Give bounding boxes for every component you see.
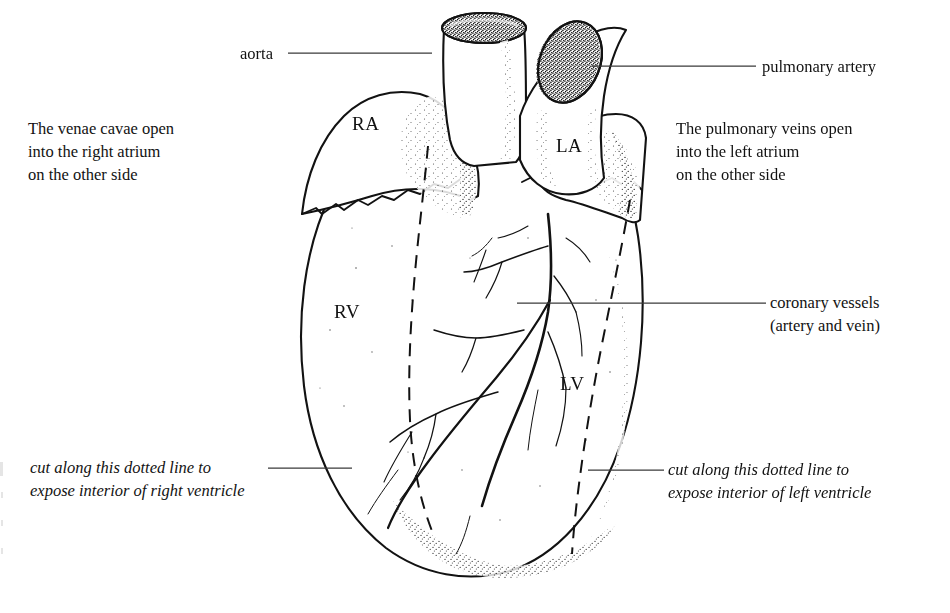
- note-left-line3: on the other side: [28, 164, 138, 185]
- figure-canvas: aorta pulmonary artery coronary vessels …: [0, 0, 950, 613]
- note-left-line1: The venae cavae open: [28, 118, 174, 139]
- cut-caption-left-line2: expose interior of right ventricle: [30, 480, 244, 501]
- scan-artifact: [0, 462, 3, 476]
- label-coronary-vessels-line2: (artery and vein): [770, 315, 880, 336]
- note-right-line2: into the left atrium: [676, 141, 799, 162]
- chamber-label-ra: RA: [352, 112, 379, 137]
- cut-caption-left-line1: cut along this dotted line to: [30, 457, 211, 478]
- heart-outline: [301, 150, 643, 577]
- cut-caption-right-line2: expose interior of left ventricle: [668, 482, 871, 503]
- cut-caption-right-line1: cut along this dotted line to: [668, 459, 849, 480]
- label-pulmonary-artery: pulmonary artery: [762, 56, 876, 77]
- scan-artifact: [1, 520, 3, 526]
- note-left-line2: into the right atrium: [28, 141, 160, 162]
- chamber-label-rv: RV: [334, 300, 360, 325]
- scan-artifact: [1, 548, 3, 554]
- note-right-line3: on the other side: [676, 164, 786, 185]
- chamber-label-la: LA: [556, 134, 582, 159]
- label-coronary-vessels-line1: coronary vessels: [770, 292, 880, 313]
- scan-artifact: [1, 492, 3, 498]
- chamber-label-lv: LV: [560, 372, 585, 397]
- label-aorta: aorta: [240, 43, 273, 64]
- aorta-vessel: [440, 12, 530, 166]
- note-right-line1: The pulmonary veins open: [676, 118, 852, 139]
